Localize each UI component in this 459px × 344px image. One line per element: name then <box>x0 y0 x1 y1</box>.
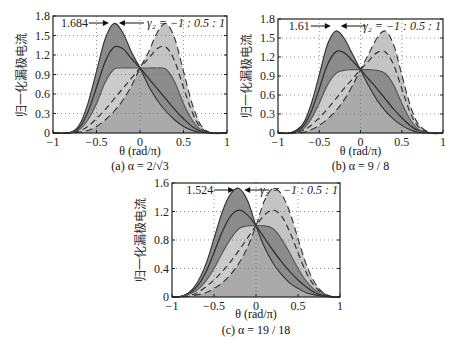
peak-value-annotation: 1.61 <box>289 19 310 33</box>
y-tick-label: 1.8 <box>260 12 275 26</box>
fill-gamma-neg-under <box>53 23 227 133</box>
x-tick-label: −0.5 <box>308 135 330 149</box>
y-tick-label: 0.6 <box>260 88 275 102</box>
panel-caption: (c) α = 19 / 18 <box>222 323 291 337</box>
x-tick-label: 1 <box>440 135 446 149</box>
x-tick-label: −1 <box>47 135 60 149</box>
y-tick-label: 1.2 <box>35 48 50 62</box>
x-tick-label: 0.5 <box>394 135 409 149</box>
x-tick-label: −1 <box>272 135 285 149</box>
x-axis-label: θ (rad/π) <box>119 144 160 158</box>
panel-caption: (b) α = 9 / 8 <box>332 159 389 173</box>
fill-gamma-neg-under <box>278 31 443 134</box>
chart-panel-c: 00.40.81.21.6−1−0.500.51θ (rad/π)归一化漏极电流… <box>134 176 343 337</box>
y-tick-label: 0.8 <box>154 233 169 247</box>
chart-panel-a: 00.30.60.91.21.51.8−1−0.500.51θ (rad/π)归… <box>15 9 230 173</box>
y-tick-label: 1.5 <box>35 29 50 43</box>
x-tick-label: −0.5 <box>203 299 225 313</box>
fill-gamma-neg-under <box>172 188 340 297</box>
y-tick-label: 0.3 <box>35 107 50 121</box>
gamma-range-annotation: γ₂ = −1 : 0.5 : 1 <box>260 183 338 197</box>
x-axis-label: θ (rad/π) <box>235 307 276 321</box>
x-tick-label: 0.5 <box>291 299 306 313</box>
y-tick-label: 1.6 <box>154 176 169 190</box>
y-tick-label: 1.8 <box>35 9 50 23</box>
gamma-range-annotation: γ₂ = −1 : 0.5 : 1 <box>147 16 225 30</box>
y-axis-label: 归一化漏极电流 <box>240 34 254 118</box>
x-axis-label: θ (rad/π) <box>340 144 381 158</box>
x-tick-label: 1 <box>337 299 343 313</box>
y-tick-label: 1.5 <box>260 31 275 45</box>
panel-caption: (a) α = 2/√3 <box>111 159 168 173</box>
x-tick-label: 0.5 <box>176 135 191 149</box>
y-tick-label: 1.2 <box>260 50 275 64</box>
peak-value-annotation: 1.524 <box>186 183 213 197</box>
y-tick-label: 0.3 <box>260 107 275 121</box>
y-tick-label: 1.2 <box>154 205 169 219</box>
peak-value-annotation: 1.684 <box>61 16 88 30</box>
figure: 00.30.60.91.21.51.8−1−0.500.51θ (rad/π)归… <box>0 0 459 344</box>
x-tick-label: −1 <box>166 299 179 313</box>
y-axis-label: 归一化漏极电流 <box>134 198 148 282</box>
y-tick-label: 0.9 <box>35 68 50 82</box>
x-tick-label: −0.5 <box>86 135 108 149</box>
y-tick-label: 0.6 <box>35 87 50 101</box>
x-tick-label: 1 <box>224 135 230 149</box>
chart-panel-b: 00.30.60.91.21.51.8−1−0.500.51θ (rad/π)归… <box>240 12 446 173</box>
gamma-range-annotation: γ₂ = −1 : 0.5 : 1 <box>363 19 441 33</box>
y-tick-label: 0.4 <box>154 262 169 276</box>
y-axis-label: 归一化漏极电流 <box>15 33 29 117</box>
y-tick-label: 0.9 <box>260 69 275 83</box>
